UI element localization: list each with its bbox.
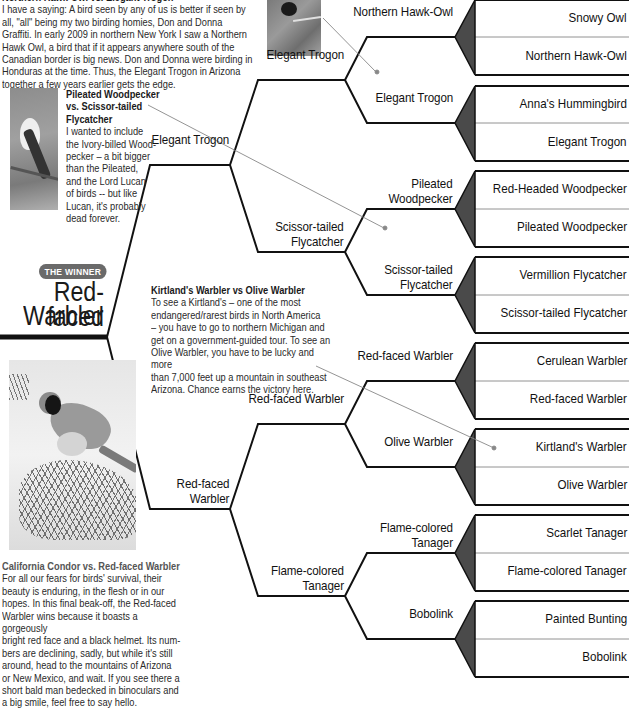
note-body-line: a big smile, feel free to say hello. [2, 697, 182, 709]
note-body-line: beauty is enduring, in the flesh or in o… [2, 586, 182, 598]
round2-entry: Red-faced Warbler [357, 348, 453, 363]
note-body-line: or New Mexico, and wait. If you see ther… [2, 673, 182, 685]
round1-entry: Scissor-tailed Flycatcher [501, 305, 627, 320]
note-body-line: – you have to go to northern Michigan an… [151, 322, 331, 334]
round2-entry: PileatedWoodpecker [389, 176, 453, 206]
flycatcher-branch [10, 166, 58, 181]
round1-entry: Snowy Owl [569, 10, 627, 25]
trogon-branch [293, 16, 321, 22]
round1-entry: Painted Bunting [545, 611, 627, 626]
pine-branch [19, 460, 136, 540]
round3-entry: Red-faced Warbler [248, 391, 344, 406]
round1-entry: Flame-colored Tanager [508, 563, 627, 578]
round1-entry: Anna's Hummingbird [520, 96, 627, 111]
note-title-line2: vs. Scissor-tailed [66, 101, 165, 113]
note-body-line: around, head to the mountains of Arizona [2, 660, 182, 672]
note-kirtland-olive: Kirtland's Warbler vs Olive Warbler To s… [151, 285, 331, 397]
note-title-line3: Flycatcher [66, 114, 165, 126]
round1-entry: Kirtland's Warbler [536, 439, 627, 454]
round4-entry: Red-facedWarbler [176, 476, 229, 506]
round1-entry: Bobolink [582, 649, 627, 664]
note-body-line: of birds -- but like [66, 188, 165, 200]
round2-entry: Northern Hawk-Owl [353, 4, 453, 19]
trogon-head [281, 2, 297, 16]
round2-entry: Olive Warbler [384, 434, 453, 449]
note-body-line: short bald man bedecked in binoculars an… [2, 685, 182, 697]
round1-entry: Scarlet Tanager [546, 525, 627, 540]
round3-entry: Elegant Trogon [266, 47, 344, 62]
note-body: I have a saying: A bird seen by any of u… [2, 4, 252, 89]
note-body-line: I wanted to include [66, 126, 165, 138]
round2-entry: Scissor-tailedFlycatcher [385, 262, 453, 292]
note-body-line: For all our fears for birds' survival, t… [2, 573, 182, 585]
note-body-line: than the Pileated, [66, 163, 165, 175]
pine-tuft [9, 374, 29, 400]
round2-entry: Bobolink [409, 606, 453, 621]
round1-entry: Elegant Trogon [548, 134, 627, 149]
note-body-line: Olive Warbler, you have to be lucky and … [151, 347, 331, 372]
note-body-line: bers are declining, sadly, but while it'… [2, 648, 182, 660]
note-body-line: endangered/rarest birds in North America [151, 310, 331, 322]
note-condor-warbler: California Condor vs. Red-faced Warbler … [2, 561, 182, 710]
note-title-line1: Pileated Woodpecker [66, 89, 165, 101]
winner-name-line2: Warbler [24, 304, 104, 329]
round3-entry: Flame-coloredTanager [271, 563, 344, 593]
winner-name: Red-faced Warbler [0, 280, 104, 332]
round1-entry: Pileated Woodpecker [517, 219, 627, 234]
note-body-line: and the Lord Lucan [66, 176, 165, 188]
note-body-line: To see a Kirtland's – one of the most [151, 297, 331, 309]
warbler-helmet [45, 395, 61, 415]
round1-entry: Vermillion Flycatcher [520, 267, 627, 282]
photo-scissor-tailed-flycatcher [10, 88, 58, 210]
note-body-line: than 7,000 feet up a mountain in southea… [151, 372, 331, 384]
round1-entry: Northern Hawk-Owl [526, 48, 627, 63]
note-body-line: the Ivory-billed Wood- [66, 139, 165, 151]
round1-entry: Cerulean Warbler [536, 353, 627, 368]
round3-entry: Scissor-tailedFlycatcher [276, 219, 344, 249]
note-body-line: Lucan, it's probably [66, 201, 165, 213]
note-title: Kirtland's Warbler vs Olive Warbler [151, 285, 331, 297]
note-body-line: pecker – a bit bigger [66, 151, 165, 163]
note-body-line: get on a government-guided tour. To see … [151, 335, 331, 347]
note-body-line: dead forever. [66, 213, 165, 225]
round1-entry: Red-faced Warbler [530, 391, 627, 406]
note-pileated-scissortailed: Pileated Woodpecker vs. Scissor-tailed F… [66, 89, 165, 225]
note-hawkowl-trogon: Northern Hawk-Owl vs. Elegant Trogon I h… [2, 0, 254, 91]
note-title: California Condor vs. Red-faced Warbler [2, 561, 182, 573]
round1-entry: Red-Headed Woodpecker [493, 181, 627, 196]
warbler-belly [57, 432, 87, 456]
round1-entry: Olive Warbler [557, 477, 627, 492]
note-body-line: hopes. In this final beak-off, the Red-f… [2, 598, 182, 610]
note-body-line: Warbler wins because it boasts a gorgeou… [2, 611, 182, 636]
round1-wedges [455, 0, 475, 677]
photo-red-faced-warbler [9, 360, 136, 550]
note-body-line: bright red face and a black helmet. Its … [2, 635, 182, 647]
round2-entry: Flame-coloredTanager [380, 520, 453, 550]
round2-entry: Elegant Trogon [375, 90, 453, 105]
round4-entry: Elegant Trogon [151, 132, 229, 147]
